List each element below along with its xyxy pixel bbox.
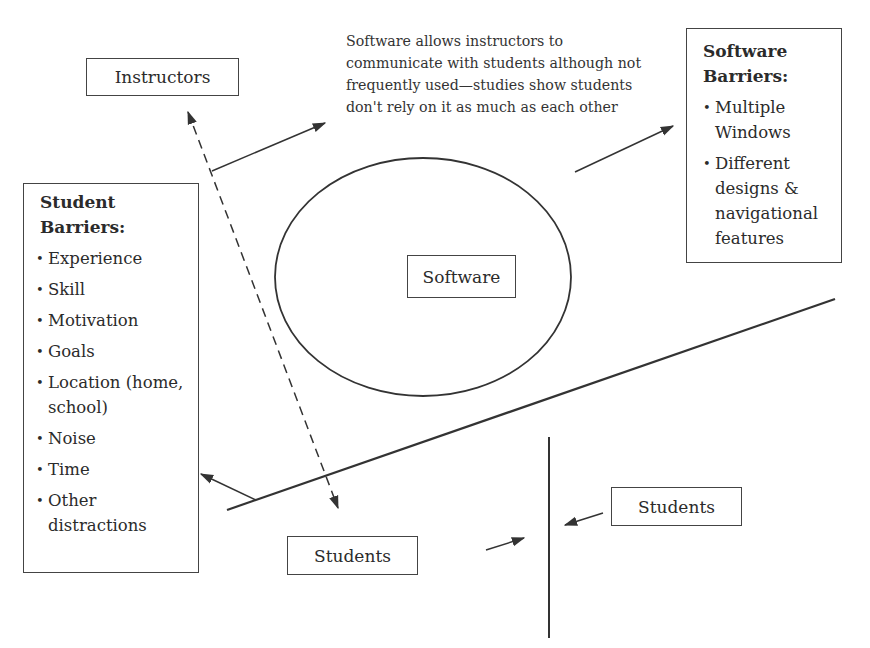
list-item: Experience	[36, 246, 190, 271]
dashed-arrow-instructors-students	[188, 112, 338, 508]
software-label: Software	[423, 267, 501, 287]
student-barriers-title: Student Barriers:	[36, 190, 190, 240]
list-item: Noise	[36, 426, 190, 451]
list-item: Location (home, school)	[36, 370, 198, 420]
list-item: Multiple Windows	[703, 95, 825, 145]
arrow-students-bottom-to-wall	[486, 538, 524, 550]
software-barriers-panel: Software Barriers: Multiple Windows Diff…	[686, 28, 842, 263]
diagram-canvas: Instructors Software allows instructors …	[0, 0, 870, 648]
list-item: Goals	[36, 339, 190, 364]
students-bottom-label: Students	[314, 546, 391, 566]
list-item: Different designs & navigational feature…	[703, 151, 835, 251]
arrow-to-annotation	[212, 123, 325, 171]
arrow-students-right-to-wall	[565, 513, 603, 525]
list-item: Time	[36, 457, 190, 482]
arrow-to-software-barriers	[575, 126, 673, 172]
student-barriers-panel: Student Barriers: Experience Skill Motiv…	[23, 183, 199, 573]
annotation-text: Software allows instructors to communica…	[346, 30, 646, 118]
list-item: Other distractions	[36, 488, 158, 538]
list-item: Motivation	[36, 308, 190, 333]
software-node: Software	[407, 255, 516, 298]
instructors-label: Instructors	[115, 67, 211, 87]
software-barriers-title: Software Barriers:	[703, 39, 833, 89]
software-barriers-list: Multiple Windows Different designs & nav…	[703, 95, 833, 251]
instructors-node: Instructors	[86, 58, 239, 96]
students-bottom-node: Students	[287, 536, 418, 575]
students-right-label: Students	[638, 497, 715, 517]
list-item: Skill	[36, 277, 190, 302]
barrier-line-diagonal	[227, 299, 835, 510]
student-barriers-list: Experience Skill Motivation Goals Locati…	[36, 246, 190, 538]
students-right-node: Students	[611, 487, 742, 526]
arrow-to-student-barriers	[201, 474, 256, 500]
